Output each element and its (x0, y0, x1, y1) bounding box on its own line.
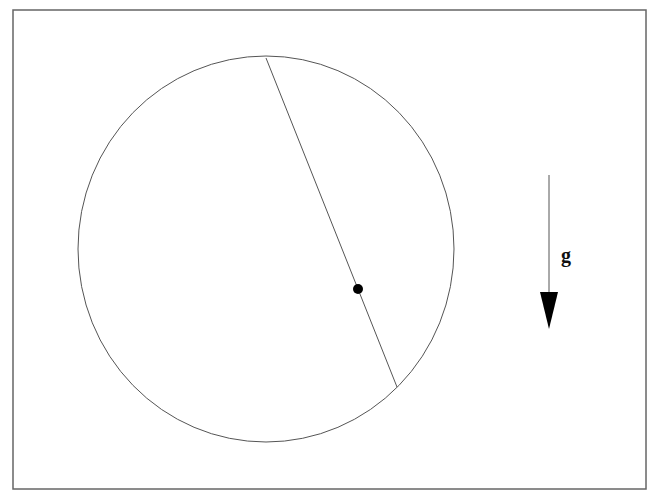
chord-line (266, 58, 397, 387)
frame-border (13, 10, 646, 489)
point-mass (353, 284, 363, 294)
circle (78, 56, 454, 442)
gravity-label: g (561, 244, 571, 267)
diagram-canvas: g (0, 0, 655, 494)
gravity-arrow-icon (540, 175, 558, 329)
